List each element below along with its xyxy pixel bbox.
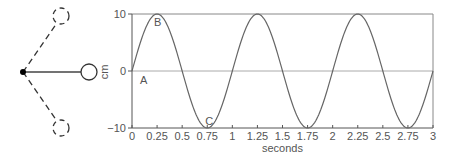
x-tick-label: 2.5	[375, 130, 390, 142]
x-tick-label: 2.25	[347, 130, 368, 142]
y-tick-label: 10	[114, 8, 126, 20]
point-label-b: B	[154, 16, 161, 28]
bob-rest	[81, 64, 97, 80]
x-tick-label: 0.5	[175, 130, 190, 142]
x-tick-label: 1.5	[275, 130, 290, 142]
x-tick-label: 1.75	[297, 130, 318, 142]
x-tick-label: 2.75	[397, 130, 418, 142]
pivot-point	[20, 69, 26, 75]
point-label-c: C	[205, 115, 213, 127]
x-tick-label: 2	[330, 130, 336, 142]
string-up-dashed	[23, 23, 57, 72]
y-tick-label: 0	[120, 65, 126, 77]
bob-up-dashed	[53, 8, 69, 24]
bob-down-dashed	[53, 120, 69, 136]
pendulum-figure: 00.250.50.7511.251.51.7522.252.52.753100…	[0, 0, 453, 157]
x-axis-label: seconds	[262, 142, 303, 154]
point-label-a: A	[140, 74, 148, 86]
string-down-dashed	[23, 72, 57, 121]
x-tick-label: 0	[129, 130, 135, 142]
x-tick-label: 0.25	[146, 130, 167, 142]
x-tick-label: 1.25	[247, 130, 268, 142]
x-tick-label: 0.75	[197, 130, 218, 142]
y-tick-label: −10	[107, 122, 126, 134]
x-tick-label: 3	[430, 130, 436, 142]
y-axis-label: cm	[98, 65, 110, 80]
x-tick-label: 1	[229, 130, 235, 142]
pendulum-diagram	[20, 8, 97, 136]
displacement-chart: 00.250.50.7511.251.51.7522.252.52.753100…	[98, 8, 436, 154]
